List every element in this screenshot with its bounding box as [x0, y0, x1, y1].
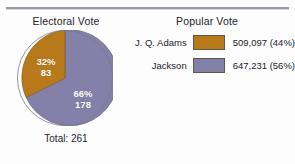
legend-swatch-jackson — [193, 58, 225, 73]
legend-swatch-adams — [193, 35, 225, 50]
electoral-vote-total: Total: 261 — [0, 133, 132, 144]
pie-svg — [17, 30, 113, 126]
election-results-figure: Electoral Vote 32% 83 66% 178 Total: 261… — [0, 0, 295, 164]
adams-count-text: 83 — [25, 67, 67, 78]
legend-label-jackson: Jackson — [132, 60, 193, 71]
pie-slice-label-adams: 32% 83 — [25, 56, 67, 78]
legend-label-adams: J. Q. Adams — [132, 37, 193, 48]
legend-value-jackson: 647,231 (56%) — [225, 60, 295, 71]
legend-row-jackson[interactable]: Jackson 647,231 (56%) — [132, 55, 295, 75]
electoral-vote-panel: Electoral Vote 32% 83 66% 178 Total: 261 — [0, 12, 132, 162]
popular-vote-title: Popular Vote — [132, 15, 282, 27]
electoral-vote-title: Electoral Vote — [0, 15, 132, 27]
legend-row-adams[interactable]: J. Q. Adams 509,097 (44%) — [132, 32, 295, 52]
jackson-count-text: 178 — [61, 99, 105, 110]
jackson-percent-text: 66% — [61, 88, 105, 99]
pie-slice-label-jackson: 66% 178 — [61, 88, 105, 110]
popular-vote-legend: J. Q. Adams 509,097 (44%) Jackson 647,23… — [132, 32, 295, 78]
electoral-vote-pie-chart: 32% 83 66% 178 — [17, 30, 113, 126]
popular-vote-panel: Popular Vote J. Q. Adams 509,097 (44%) J… — [132, 12, 295, 162]
header-divider — [6, 7, 289, 9]
adams-percent-text: 32% — [25, 56, 67, 67]
legend-value-adams: 509,097 (44%) — [225, 37, 295, 48]
